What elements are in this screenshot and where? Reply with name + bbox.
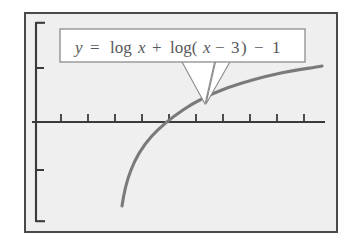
eq-part-close: ) [241, 38, 247, 57]
eq-part-x2: x [202, 38, 211, 57]
eq-part-y: y [73, 38, 83, 57]
eq-part-equals: = [90, 38, 100, 57]
eq-part-x1: x [137, 38, 146, 57]
eq-part-minus2: − [254, 38, 264, 57]
eq-part-log1: log [110, 38, 132, 57]
graph-canvas: y = log x + log( x − 3 ) − 1 [0, 0, 353, 245]
eq-part-log2: log( [170, 38, 198, 57]
eq-part-three: 3 [231, 38, 240, 57]
eq-part-minus1: − [215, 38, 225, 57]
eq-part-plus: + [152, 38, 162, 57]
eq-part-one: 1 [272, 38, 281, 57]
figure-container: y = log x + log( x − 3 ) − 1 [0, 0, 353, 245]
